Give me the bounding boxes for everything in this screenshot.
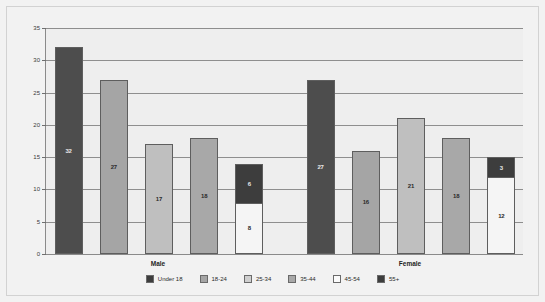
legend-swatch-icon	[333, 275, 341, 283]
y-axis-tick-label: 10	[33, 186, 40, 192]
bar-segment[interactable]: 12	[488, 177, 514, 253]
legend-item[interactable]: 25-34	[244, 275, 271, 283]
legend-swatch-icon	[377, 275, 385, 283]
legend-swatch-icon	[146, 275, 154, 283]
bar[interactable]: 17	[145, 144, 173, 254]
bar[interactable]: 21	[397, 118, 425, 254]
y-axis-tick-label: 20	[33, 122, 40, 128]
bar[interactable]: 18	[190, 138, 218, 254]
chart-legend: Under 1818-2425-3435-4445-5455+	[7, 275, 538, 283]
bar[interactable]: 16	[352, 151, 380, 254]
bar-segment[interactable]: 8	[236, 203, 262, 254]
bar[interactable]: 27	[307, 80, 335, 254]
bar-value-label: 27	[317, 164, 323, 170]
legend-item[interactable]: Under 18	[146, 275, 183, 283]
legend-item[interactable]: 45-54	[333, 275, 360, 283]
bar-value-label: 3	[500, 165, 503, 171]
bar-segment[interactable]: 3	[488, 158, 514, 177]
bar-segment[interactable]: 21	[398, 119, 424, 253]
bar-value-label: 17	[156, 196, 162, 202]
bar-value-label: 12	[498, 213, 504, 219]
chart-frame: 05101520253035 322717186827162118312 Mal…	[6, 6, 539, 296]
bar-value-label: 8	[248, 225, 251, 231]
bar-segment[interactable]: 16	[353, 152, 379, 253]
y-axis-tick-label: 25	[33, 90, 40, 96]
y-axis-tick-label: 30	[33, 57, 40, 63]
bar[interactable]: 27	[100, 80, 128, 254]
bar-value-label: 21	[408, 183, 414, 189]
bar[interactable]: 312	[487, 157, 515, 254]
plot-area: 05101520253035 322717186827162118312	[45, 29, 523, 255]
y-axis-tick-label: 5	[37, 219, 40, 225]
bar-value-label: 18	[453, 193, 459, 199]
y-tick-mark	[42, 254, 46, 255]
legend-label: 45-54	[345, 276, 360, 282]
bars-layer: 322717186827162118312	[46, 29, 523, 254]
chart-screenshot: 05101520253035 322717186827162118312 Mal…	[0, 0, 545, 302]
bar-value-label: 16	[363, 199, 369, 205]
bar-segment[interactable]: 18	[191, 139, 217, 253]
bar-segment[interactable]: 18	[443, 139, 469, 253]
legend-swatch-icon	[200, 275, 208, 283]
bar-value-label: 27	[111, 164, 117, 170]
x-axis-category-label: Male	[151, 261, 165, 268]
bar-segment[interactable]: 6	[236, 165, 262, 203]
legend-label: Under 18	[158, 276, 183, 282]
bar-value-label: 18	[201, 193, 207, 199]
y-axis-tick-label: 15	[33, 154, 40, 160]
legend-label: 25-34	[256, 276, 271, 282]
legend-swatch-icon	[288, 275, 296, 283]
bar[interactable]: 32	[55, 47, 83, 254]
legend-item[interactable]: 35-44	[288, 275, 315, 283]
bar-segment[interactable]: 27	[308, 81, 334, 253]
y-axis-tick-label: 0	[37, 251, 40, 257]
bar-segment[interactable]: 32	[56, 48, 82, 253]
legend-label: 18-24	[212, 276, 227, 282]
legend-swatch-icon	[244, 275, 252, 283]
legend-label: 35-44	[300, 276, 315, 282]
bar-segment[interactable]: 27	[101, 81, 127, 253]
bar-segment[interactable]: 17	[146, 145, 172, 253]
legend-label: 55+	[389, 276, 399, 282]
x-axis-category-label: Female	[399, 261, 421, 268]
legend-item[interactable]: 18-24	[200, 275, 227, 283]
bar[interactable]: 18	[442, 138, 470, 254]
y-axis-tick-label: 35	[33, 25, 40, 31]
bar-value-label: 6	[248, 181, 251, 187]
bar-value-label: 32	[65, 148, 71, 154]
legend-item[interactable]: 55+	[377, 275, 399, 283]
bar[interactable]: 68	[235, 164, 263, 254]
